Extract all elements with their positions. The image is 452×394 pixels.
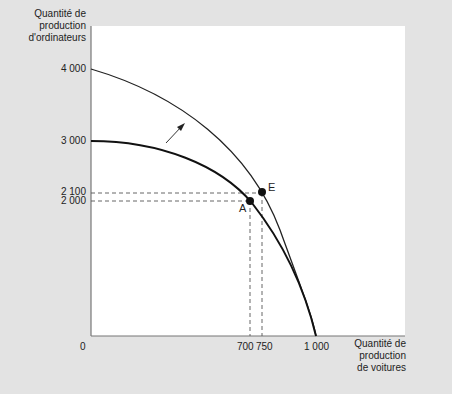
x-label-line: production: [340, 350, 406, 362]
x-tick-750: 750: [256, 341, 273, 353]
y-label-line: d'ordinateurs: [6, 32, 86, 44]
guide-lines: [91, 193, 262, 336]
x-tick-700: 700: [237, 341, 254, 353]
x-axis-label: Quantité de production de voitures: [340, 338, 406, 374]
point-e-label: E: [268, 181, 275, 193]
point-a-label: A: [239, 202, 246, 214]
x-label-line: Quantité de: [340, 338, 406, 350]
y-tick-3000: 3 000: [6, 136, 86, 146]
point-a: [246, 197, 254, 205]
frontier-outer: [91, 69, 316, 336]
y-tick-2000: 2 000: [6, 196, 86, 206]
frontier-inner: [91, 141, 316, 336]
y-label-line: production: [6, 20, 86, 32]
y-label-line: Quantité de: [6, 8, 86, 20]
x-label-line: de voitures: [340, 362, 406, 374]
y-axis-label: Quantité de production d'ordinateurs: [6, 8, 86, 44]
point-e: [258, 188, 266, 196]
x-tick-origin: 0: [80, 341, 86, 353]
x-tick-1000: 1 000: [304, 341, 329, 353]
y-tick-4000: 4 000: [6, 64, 86, 74]
